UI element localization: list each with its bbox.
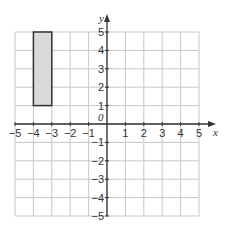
y-tick-label: 1 <box>98 100 104 112</box>
y-tick-label: 4 <box>98 44 104 56</box>
x-axis-label: x <box>212 126 218 138</box>
x-tick-label: −3 <box>46 127 59 139</box>
y-axis-arrow-icon <box>104 14 110 22</box>
x-tick-label: 1 <box>122 127 128 139</box>
x-tick-label: 3 <box>159 127 165 139</box>
origin-label: 0 <box>98 111 104 123</box>
y-tick-label: 3 <box>98 63 104 75</box>
rectangle-shape <box>33 32 51 106</box>
y-tick-label: 5 <box>98 26 104 38</box>
y-tick-label: 2 <box>98 81 104 93</box>
y-tick-label: −3 <box>91 173 104 185</box>
coordinate-grid: xy0−5−4−3−2−11234554321−1−2−3−4−5 <box>0 0 228 234</box>
y-tick-label: −2 <box>91 155 104 167</box>
y-tick-label: −1 <box>91 136 104 148</box>
x-tick-label: −2 <box>64 127 77 139</box>
x-tick-label: 2 <box>141 127 147 139</box>
y-tick-label: −5 <box>91 210 104 222</box>
y-tick-label: −4 <box>91 192 104 204</box>
x-tick-label: −4 <box>27 127 40 139</box>
x-tick-label: −5 <box>9 127 22 139</box>
x-tick-label: 5 <box>196 127 202 139</box>
x-tick-label: 4 <box>178 127 184 139</box>
y-axis-label: y <box>98 12 104 24</box>
